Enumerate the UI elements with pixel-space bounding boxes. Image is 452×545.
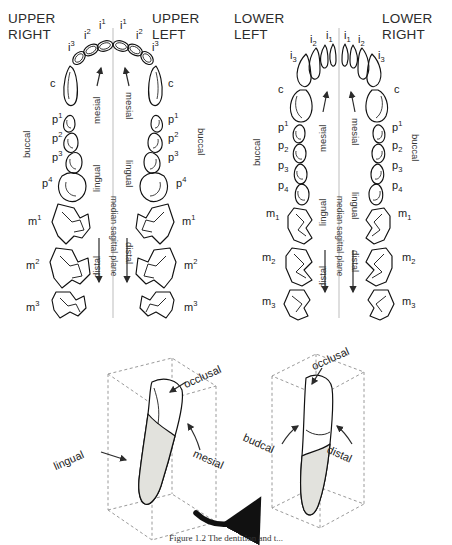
label-lower-right-i3: i3: [378, 50, 385, 64]
label-upper-left-distal: distal: [125, 242, 135, 264]
quadrant-lower-left-line1: LOWER: [234, 12, 285, 26]
label-upper-left-p3: p3: [168, 150, 178, 163]
label-lower-left-canine: c: [278, 84, 284, 95]
rotation-arrow: [196, 506, 256, 524]
label-lower-right-distal: distal: [351, 250, 361, 272]
label-upper-right-lingual: lingual: [92, 165, 102, 192]
label-upper-right-buccal: buccal: [22, 131, 32, 158]
label-upper-left-i3: i3: [152, 40, 159, 53]
distal-arrow-right: [337, 426, 352, 444]
label-upper-right-i3: i3: [68, 40, 75, 53]
mesial-arrow-left: [188, 424, 200, 450]
lower-right-incisors: [342, 44, 381, 87]
label-lower-right-p2: p2: [392, 140, 402, 154]
buccal-arrow-right: [282, 426, 298, 444]
lower-left-mesial-arrow: [323, 92, 327, 112]
label-lower-left-m3: m3: [262, 296, 275, 310]
label-upper-right-canine: c: [50, 78, 56, 89]
label-upper-right-i1: i1: [99, 18, 106, 31]
label-lower-right-lingual: lingual: [351, 192, 361, 219]
label-lower-right-m1: m1: [398, 208, 411, 222]
label-upper-left-i2: i2: [136, 28, 143, 41]
label-lower-right-p4: p4: [392, 180, 402, 194]
lower-right-premolars: [369, 125, 385, 205]
upper-right-canine: [64, 66, 78, 106]
label-lower-left-p3: p3: [278, 160, 288, 174]
upper-left-mesial-arrow: [125, 68, 129, 86]
label-upper-left-p4: p4: [176, 176, 186, 189]
dentition-figure: UPPER RIGHT UPPER LEFT LOWER LEFT LOWER …: [0, 0, 452, 545]
label-lower-left-i1: i1: [326, 30, 333, 44]
label-upper-right-distal: distal: [92, 256, 102, 278]
upper-left-canine: [149, 66, 163, 106]
label-lower-median-sagittal-plane: median sagittal plane: [336, 196, 345, 276]
lower-left-incisors: [297, 44, 336, 87]
tooth-left: [139, 379, 183, 504]
label-lower-left-buccal-right: buccal: [411, 134, 421, 161]
label-lower-left-i2: i2: [310, 34, 317, 48]
quadrant-lower-right-line2: RIGHT: [382, 28, 425, 42]
figure-caption: Figure 1.2 The dentition and t...: [0, 533, 452, 543]
lower-left-molars: [284, 208, 312, 320]
label-lower-left-p2: p2: [278, 140, 288, 154]
label-upper-right-p2: p2: [52, 131, 62, 144]
label-lower-left-lingual: lingual: [318, 199, 328, 226]
label-lower-left-m1: m1: [266, 208, 279, 222]
label-lower-right-canine: c: [394, 84, 400, 95]
quadrant-upper-left-line1: UPPER: [152, 12, 200, 26]
label-upper-right-mesial: mesial: [92, 97, 102, 124]
label-upper-left-p2: p2: [168, 131, 178, 144]
label-upper-left-m3: m3: [184, 300, 197, 313]
upper-left-incisors: [112, 39, 156, 67]
label-upper-right-p3: p3: [52, 150, 62, 163]
label-lower-left-m2: m2: [262, 252, 275, 266]
label-lower-left-mesial: mesial: [318, 125, 328, 152]
label-upper-left-mesial: mesial: [125, 92, 135, 119]
upper-right-mesial-arrow: [97, 68, 101, 86]
label-upper-right-m3: m3: [26, 300, 39, 313]
label-upper-right-p1: p1: [52, 112, 62, 125]
quadrant-lower-left-line2: LEFT: [234, 28, 268, 42]
label-lower-right-m3: m3: [402, 296, 415, 310]
label-upper-left-canine: c: [168, 78, 174, 89]
upper-right-premolars: [59, 115, 86, 201]
label-upper-right-m1: m1: [28, 214, 41, 227]
lingual-arrow-left: [101, 452, 126, 460]
label-lower-left-p1: p1: [278, 120, 288, 133]
label-upper-left-m1: m1: [182, 214, 195, 227]
lower-left-canine: [290, 90, 312, 122]
tooth-right: [301, 375, 333, 515]
label-lower-left-p4: p4: [278, 180, 288, 194]
label-upper-right-p4: p4: [42, 176, 52, 189]
label-upper-left-lingual: lingual: [125, 160, 135, 187]
lower-right-molars: [366, 208, 394, 320]
label-lower-left-buccal: buccal: [252, 139, 262, 166]
label-lower-right-p3: p3: [392, 160, 402, 174]
label-upper-left-p1: p1: [168, 112, 178, 125]
label-lower-left-distal: distal: [318, 266, 328, 288]
quadrant-upper-right-line1: UPPER: [8, 12, 56, 26]
label-upper-left-buccal: buccal: [197, 128, 207, 155]
label-upper-left-i1: i1: [120, 18, 127, 31]
lower-right-canine: [366, 90, 388, 122]
label-upper-right-i2: i2: [84, 28, 91, 41]
label-lower-right-p1: p1: [392, 120, 402, 133]
upper-left-molars: [136, 204, 176, 318]
upper-right-incisors: [70, 39, 114, 67]
lower-left-premolars: [293, 125, 309, 205]
label-upper-median-sagittal-plane: median sagittal plane: [110, 196, 119, 276]
label-lower-left-i3: i3: [290, 50, 297, 64]
label-lower-right-i1: i1: [344, 30, 351, 44]
upper-left-premolars: [140, 115, 167, 201]
quadrant-lower-right-line1: LOWER: [382, 12, 433, 26]
label-lower-right-mesial: mesial: [351, 118, 361, 145]
label-lower-right-m2: m2: [402, 252, 415, 266]
quadrant-upper-right-line2: RIGHT: [8, 28, 51, 42]
lower-right-mesial-arrow: [351, 92, 355, 112]
label-lower-right-i2: i2: [358, 34, 365, 48]
upper-right-molars: [50, 204, 90, 318]
label-upper-left-m2: m2: [184, 258, 197, 271]
label-upper-right-m2: m2: [26, 258, 39, 271]
